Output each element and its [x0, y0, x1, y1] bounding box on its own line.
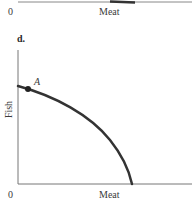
point-a-marker — [25, 86, 31, 92]
point-a-label: A — [34, 76, 40, 87]
top-panel-curve-end — [110, 2, 135, 3]
panel-d-x-label: Meat — [99, 189, 120, 200]
panel-d-label: d. — [17, 33, 25, 44]
top-panel-x-label: Meat — [99, 6, 120, 17]
top-panel-origin-label: 0 — [8, 6, 13, 17]
ppf-curve — [18, 86, 132, 184]
panel-d-y-label: Fish — [3, 101, 14, 118]
chart-canvas — [0, 0, 192, 203]
panel-d-origin-label: 0 — [8, 189, 13, 200]
